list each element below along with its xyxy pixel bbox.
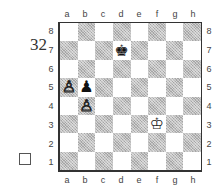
square-f2 bbox=[148, 133, 166, 151]
rank-label-4: 4 bbox=[46, 101, 56, 111]
square-d5 bbox=[113, 78, 131, 96]
square-g8 bbox=[166, 23, 184, 41]
rank-label-8: 8 bbox=[204, 26, 214, 36]
file-label-d: d bbox=[112, 175, 130, 185]
square-b3 bbox=[78, 115, 96, 133]
square-a8 bbox=[60, 23, 78, 41]
square-f5 bbox=[148, 78, 166, 96]
square-c1 bbox=[95, 152, 113, 170]
square-a1 bbox=[60, 152, 78, 170]
square-d7: ♚ bbox=[113, 41, 131, 59]
square-h5 bbox=[183, 78, 201, 96]
rank-label-2: 2 bbox=[46, 139, 56, 149]
square-g3 bbox=[166, 115, 184, 133]
square-a3 bbox=[60, 115, 78, 133]
square-h2 bbox=[183, 133, 201, 151]
square-g6 bbox=[166, 60, 184, 78]
square-d8 bbox=[113, 23, 131, 41]
file-label-a: a bbox=[58, 9, 76, 19]
file-label-c: c bbox=[94, 9, 112, 19]
square-d6 bbox=[113, 60, 131, 78]
file-label-f: f bbox=[148, 9, 166, 19]
square-h7 bbox=[183, 41, 201, 59]
file-label-d: d bbox=[112, 9, 130, 19]
square-e1 bbox=[131, 152, 149, 170]
rank-label-3: 3 bbox=[204, 120, 214, 130]
rank-label-5: 5 bbox=[46, 82, 56, 92]
rank-label-8: 8 bbox=[46, 26, 56, 36]
square-b6 bbox=[78, 60, 96, 78]
square-c4 bbox=[95, 97, 113, 115]
square-d1 bbox=[113, 152, 131, 170]
square-d2 bbox=[113, 133, 131, 151]
rank-label-3: 3 bbox=[46, 120, 56, 130]
square-c7 bbox=[95, 41, 113, 59]
square-h3 bbox=[183, 115, 201, 133]
square-h6 bbox=[183, 60, 201, 78]
file-label-g: g bbox=[166, 175, 184, 185]
square-b2 bbox=[78, 133, 96, 151]
file-label-b: b bbox=[76, 175, 94, 185]
file-label-f: f bbox=[148, 175, 166, 185]
square-b4: ♙ bbox=[78, 97, 96, 115]
square-g5 bbox=[166, 78, 184, 96]
black-king-icon: ♚ bbox=[115, 43, 129, 59]
file-label-h: h bbox=[184, 9, 202, 19]
square-h1 bbox=[183, 152, 201, 170]
square-d4 bbox=[113, 97, 131, 115]
file-label-e: e bbox=[130, 9, 148, 19]
square-f6 bbox=[148, 60, 166, 78]
square-e8 bbox=[131, 23, 149, 41]
square-a6 bbox=[60, 60, 78, 78]
rank-label-6: 6 bbox=[46, 64, 56, 74]
square-e5 bbox=[131, 78, 149, 96]
square-e4 bbox=[131, 97, 149, 115]
file-label-c: c bbox=[94, 175, 112, 185]
square-a4 bbox=[60, 97, 78, 115]
square-f8 bbox=[148, 23, 166, 41]
square-a5: ♙ bbox=[60, 78, 78, 96]
rank-label-5: 5 bbox=[204, 82, 214, 92]
square-f4 bbox=[148, 97, 166, 115]
square-g2 bbox=[166, 133, 184, 151]
square-c6 bbox=[95, 60, 113, 78]
square-g4 bbox=[166, 97, 184, 115]
rank-label-6: 6 bbox=[204, 64, 214, 74]
file-label-a: a bbox=[58, 175, 76, 185]
square-e2 bbox=[131, 133, 149, 151]
square-b8 bbox=[78, 23, 96, 41]
file-label-h: h bbox=[184, 175, 202, 185]
square-b7 bbox=[78, 41, 96, 59]
square-e7 bbox=[131, 41, 149, 59]
square-c2 bbox=[95, 133, 113, 151]
rank-label-1: 1 bbox=[204, 157, 214, 167]
square-e6 bbox=[131, 60, 149, 78]
white-to-move-indicator bbox=[19, 153, 31, 165]
square-b5: ♟ bbox=[78, 78, 96, 96]
file-label-e: e bbox=[130, 175, 148, 185]
rank-label-1: 1 bbox=[46, 157, 56, 167]
white-pawn-icon: ♙ bbox=[62, 79, 76, 95]
rank-label-4: 4 bbox=[204, 101, 214, 111]
white-pawn-icon: ♙ bbox=[79, 98, 93, 114]
black-pawn-icon: ♟ bbox=[79, 79, 93, 95]
square-g7 bbox=[166, 41, 184, 59]
square-g1 bbox=[166, 152, 184, 170]
square-f1 bbox=[148, 152, 166, 170]
square-h8 bbox=[183, 23, 201, 41]
rank-label-2: 2 bbox=[204, 139, 214, 149]
square-c5 bbox=[95, 78, 113, 96]
rank-label-7: 7 bbox=[204, 45, 214, 55]
square-h4 bbox=[183, 97, 201, 115]
square-e3 bbox=[131, 115, 149, 133]
file-label-g: g bbox=[166, 9, 184, 19]
square-a2 bbox=[60, 133, 78, 151]
rank-label-7: 7 bbox=[46, 45, 56, 55]
square-c8 bbox=[95, 23, 113, 41]
chess-board: ♚♙♟♙♔ bbox=[58, 22, 202, 172]
square-d3 bbox=[113, 115, 131, 133]
square-f3: ♔ bbox=[148, 115, 166, 133]
file-label-b: b bbox=[76, 9, 94, 19]
white-king-icon: ♔ bbox=[150, 116, 164, 132]
diagram-number: 32 bbox=[30, 35, 47, 55]
